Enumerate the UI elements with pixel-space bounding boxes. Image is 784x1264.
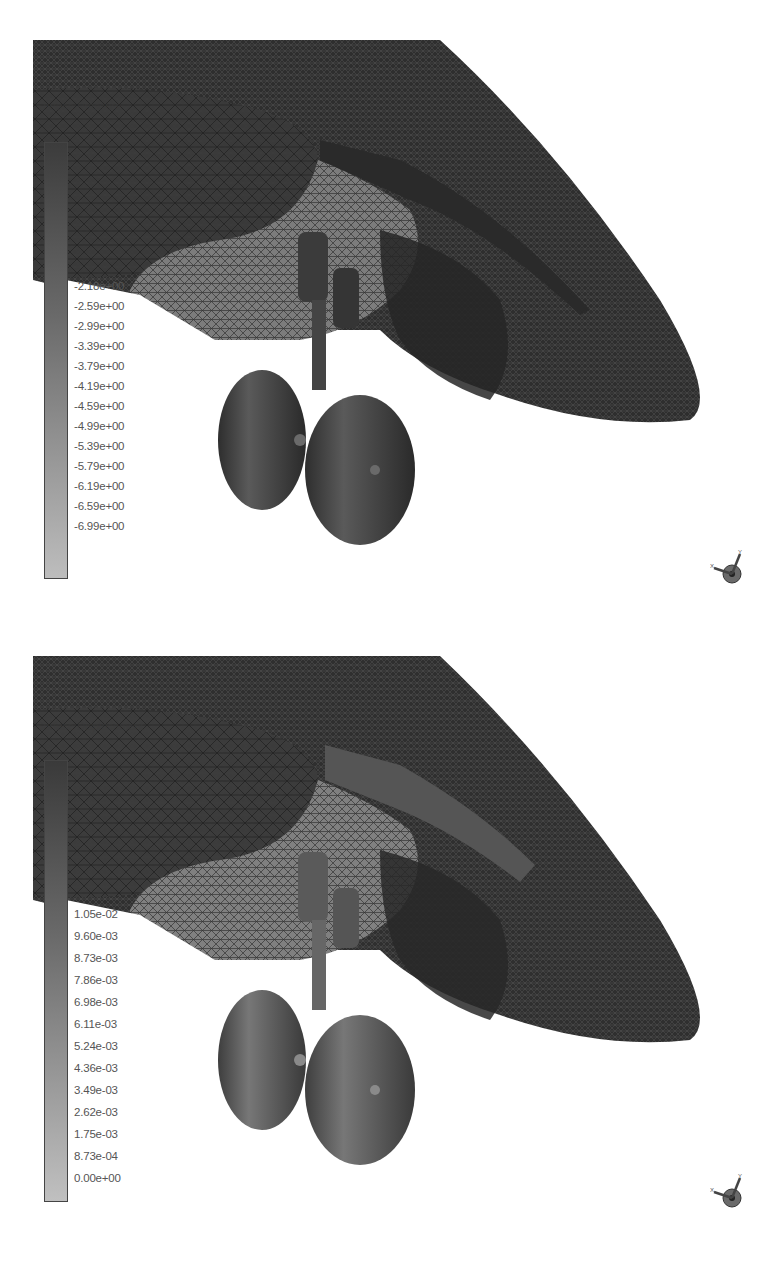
legend-label: -4.99e+00 bbox=[74, 420, 124, 432]
legend-title: Surface Displacement bbox=[36, 720, 144, 732]
svg-text:Y: Y bbox=[738, 1173, 742, 1179]
displacement-result-panel: Surface Displacement 1.05e-02 9.60e-03 8… bbox=[0, 620, 784, 1264]
legend-label: 3.49e-03 bbox=[74, 1084, 118, 1096]
legend-label: -6.19e+00 bbox=[74, 480, 124, 492]
legend-label: -4.19e+00 bbox=[74, 380, 124, 392]
legend-label: -2.18e+00 bbox=[74, 280, 124, 292]
legend-label: 5.24e-03 bbox=[74, 1040, 118, 1052]
nose-mesh-model bbox=[0, 620, 784, 1264]
legend-label: 8.73e-03 bbox=[74, 952, 118, 964]
legend-label: 4.36e-03 bbox=[74, 1062, 118, 1074]
legend-label: 6.11e-03 bbox=[74, 1018, 117, 1030]
legend-label: -2.99e+00 bbox=[74, 320, 124, 332]
legend-label: -4.59e+00 bbox=[74, 400, 124, 412]
legend-color-bar bbox=[44, 142, 68, 579]
legend-label: 6.98e-03 bbox=[74, 996, 118, 1008]
legend-title: Surface Pressure bbox=[36, 100, 121, 112]
svg-text:Y: Y bbox=[738, 549, 742, 555]
legend-label: -3.39e+00 bbox=[74, 340, 124, 352]
legend-label: 2.62e-03 bbox=[74, 1106, 118, 1118]
svg-text:X: X bbox=[710, 1187, 714, 1193]
legend-label: -5.79e+00 bbox=[74, 460, 124, 472]
legend-label: -5.39e+00 bbox=[74, 440, 124, 452]
axis-triad-icon[interactable]: Y X bbox=[710, 548, 754, 592]
legend-label: 9.60e-03 bbox=[74, 930, 118, 942]
svg-text:X: X bbox=[710, 563, 714, 569]
legend-label: 1.05e-02 bbox=[74, 908, 118, 920]
axis-triad-icon[interactable]: Y X bbox=[710, 1172, 754, 1216]
legend-label: 7.86e-03 bbox=[74, 974, 118, 986]
legend-label: 8.73e-04 bbox=[74, 1150, 118, 1162]
legend-color-bar bbox=[44, 760, 68, 1202]
pressure-result-panel: Surface Pressure -2.18e+00 -2.59e+00 -2.… bbox=[0, 0, 784, 620]
legend-label: 0.00e+00 bbox=[74, 1172, 121, 1184]
legend-label: -6.99e+00 bbox=[74, 520, 124, 532]
legend-label: -3.79e+00 bbox=[74, 360, 124, 372]
legend-label: 1.75e-03 bbox=[74, 1128, 118, 1140]
legend-label: -6.59e+00 bbox=[74, 500, 124, 512]
legend-label: -2.59e+00 bbox=[74, 300, 124, 312]
